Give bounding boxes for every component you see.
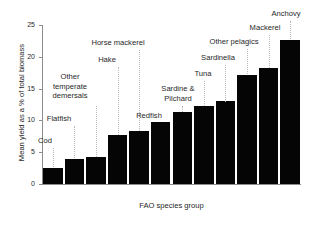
label-leader-line [182,106,183,112]
y-tick-label: 5 [17,148,35,156]
category-label: Mackerel [237,23,293,33]
category-label: Other pelagics [199,37,269,47]
label-leader-line [53,148,54,167]
bar [173,112,192,184]
y-tick [39,184,42,185]
y-tick-label: 10 [17,116,35,124]
x-axis-title: FAO species group [42,201,301,210]
label-leader-line [290,21,291,39]
label-leader-line [204,81,205,106]
bar [259,68,278,184]
plot-area [42,25,301,184]
category-label: Flatfish [36,114,82,124]
category-label: Sardine & Pilchard [150,84,206,103]
category-label: Redfish [126,111,172,121]
y-tick-label: 25 [17,21,35,29]
bar [216,101,235,184]
bar [280,40,299,184]
label-leader-line [118,67,119,135]
bar [108,135,127,184]
bar [43,168,62,184]
category-label: Other temperate demersals [43,72,97,101]
bar [86,157,105,184]
category-label: Cod [22,136,68,146]
y-tick-label: 20 [17,53,35,61]
bar [237,75,256,184]
y-tick-label: 0 [17,180,35,188]
category-label: Anchovy [258,9,314,19]
label-leader-line [269,35,270,68]
bar [129,131,148,184]
category-label: Tuna [180,69,226,79]
bar [194,106,213,184]
bar-chart-figure: Mean yield as a % of total biomass 05101… [0,0,317,226]
label-leader-line [74,126,75,158]
category-label: Sardinella [190,53,246,63]
bar [151,122,170,184]
label-leader-line [247,49,248,74]
y-tick-label: 15 [17,85,35,93]
category-label: Horse mackerel [82,38,154,48]
label-leader-line [225,65,226,102]
category-label: Hake [84,55,130,65]
label-leader-line [96,106,97,157]
bar [65,159,84,184]
x-axis-line [42,184,301,185]
